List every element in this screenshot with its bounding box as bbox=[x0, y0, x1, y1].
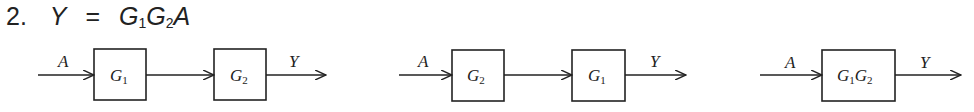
input-label: A bbox=[417, 52, 429, 71]
block-label: G2 bbox=[467, 66, 485, 86]
block-label: G1 bbox=[110, 66, 128, 86]
input-label: A bbox=[57, 52, 69, 71]
output-label: Y bbox=[289, 52, 300, 71]
diagram-1: A G1 G2 Y bbox=[38, 49, 326, 100]
block-diagrams: A G1 G2 Y A G2 G1 Y A G1G2 Y bbox=[0, 0, 974, 112]
block-label: G2 bbox=[230, 66, 248, 86]
output-label: Y bbox=[650, 52, 661, 71]
block-label: G1 bbox=[588, 66, 606, 86]
diagram-2: A G2 G1 Y bbox=[399, 50, 686, 101]
output-label: Y bbox=[920, 53, 931, 72]
diagram-3: A G1G2 Y bbox=[760, 50, 961, 101]
block-label: G1G2 bbox=[837, 66, 873, 86]
input-label: A bbox=[784, 53, 796, 72]
